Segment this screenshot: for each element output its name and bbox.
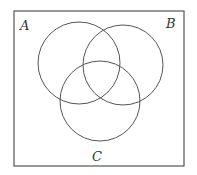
venn-diagram: A B C <box>0 0 197 175</box>
set-b-circle <box>83 25 163 105</box>
set-b-label: B <box>165 16 176 31</box>
set-c-label: C <box>92 149 102 164</box>
set-a-label: A <box>19 18 29 33</box>
universe-rectangle <box>14 11 184 166</box>
set-a-circle <box>38 22 120 104</box>
set-c-circle <box>60 61 140 141</box>
